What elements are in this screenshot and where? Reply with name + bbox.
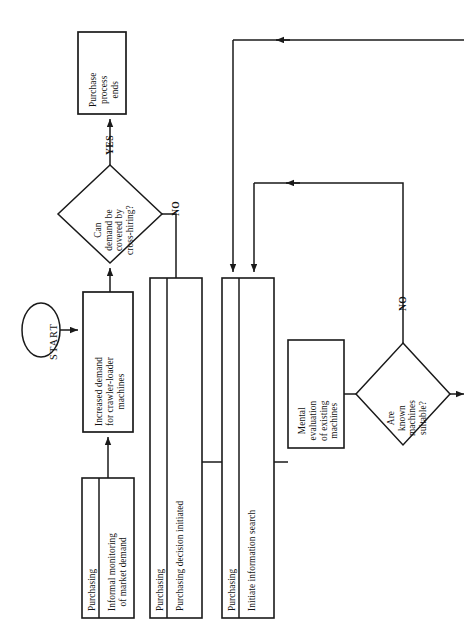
edge-label-yes: YES <box>104 135 115 155</box>
lane-label-informal-monitoring: Purchasing <box>87 569 98 611</box>
node-increased-demand-label: Increased demand for crawler-loader mach… <box>94 357 126 426</box>
flowchart-canvas: START Purchase process ends Can demand b… <box>0 0 464 637</box>
node-informal-monitoring-label: Informal monitoring of market demand <box>107 533 129 611</box>
edge-no-known-machines-loopback <box>254 183 403 343</box>
edge-label-no-cross-hiring: NO <box>170 201 181 216</box>
node-known-machines-decision-label: Are known machines suitable? <box>386 400 428 436</box>
lane-label-purchasing-decision: Purchasing <box>155 569 166 611</box>
node-mental-evaluation-label: Mental evaluation of existing machines <box>297 400 340 441</box>
flowchart-svg <box>0 0 464 637</box>
node-start-label: START <box>48 323 60 360</box>
lane-label-initiate-search: Purchasing <box>227 569 238 611</box>
node-purchasing-decision-initiated-label: Purchasing decision initiated <box>175 501 186 611</box>
node-purchase-process-ends-label: Purchase process ends <box>88 73 120 107</box>
edge-label-no-known-machines: NO <box>397 296 408 311</box>
node-cross-hiring-decision-label: Can demand be covered by cross-hiring? <box>93 205 135 255</box>
node-initiate-information-search-label: Initiate information search <box>247 510 258 611</box>
edge-no-to-purchasing-decision <box>162 214 176 278</box>
